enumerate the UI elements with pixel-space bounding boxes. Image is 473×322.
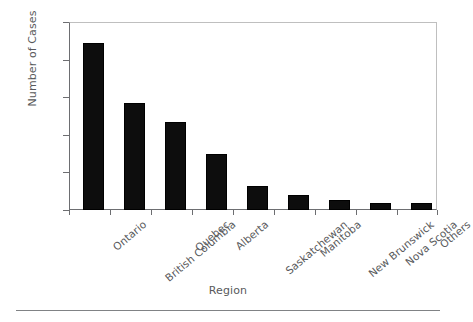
y-axis-title: Number of Cases: [26, 0, 39, 129]
bar-new-brunswick: [329, 200, 350, 210]
x-tick-mark-6: [315, 210, 316, 215]
x-tick-mark-0: [69, 210, 70, 215]
x-tick-mark-4: [233, 210, 234, 215]
bottom-divider: [16, 310, 440, 311]
bar-alberta: [206, 154, 227, 210]
x-tick-mark-3: [192, 210, 193, 215]
x-tick-mark-7: [356, 210, 357, 215]
x-tick-mark-5: [274, 210, 275, 215]
x-tick-mark-9: [437, 210, 438, 215]
bar-ontario: [83, 43, 104, 210]
x-tick-label-saskatchewan: Saskatchewan: [283, 218, 350, 277]
x-axis-title: Region: [0, 284, 456, 297]
x-tick-label-alberta: Alberta: [233, 218, 270, 252]
bar-manitoba: [288, 195, 309, 210]
x-tick-mark-8: [397, 210, 398, 215]
x-tick-mark-1: [110, 210, 111, 215]
bar-nova-scotia: [370, 203, 391, 211]
bar-saskatchewan: [247, 186, 268, 210]
bar-quebec: [165, 122, 186, 210]
x-tick-mark-2: [151, 210, 152, 215]
x-tick-label-ontario: Ontario: [110, 218, 148, 253]
bar-others: [411, 203, 432, 210]
bar-british-columbia: [124, 103, 145, 210]
